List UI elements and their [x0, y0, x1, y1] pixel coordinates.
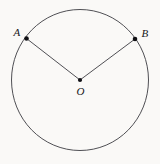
point-dot-a	[24, 36, 29, 41]
geometry-figure: A B O	[0, 0, 160, 164]
point-label-b: B	[142, 27, 149, 39]
point-label-a: A	[13, 26, 21, 38]
radius-segment-ob	[80, 39, 135, 80]
geometry-canvas: A B O	[0, 0, 160, 164]
radius-segment-oa	[27, 39, 81, 81]
point-dot-o	[78, 78, 82, 82]
point-dot-b	[133, 37, 138, 42]
point-label-o: O	[76, 85, 84, 97]
